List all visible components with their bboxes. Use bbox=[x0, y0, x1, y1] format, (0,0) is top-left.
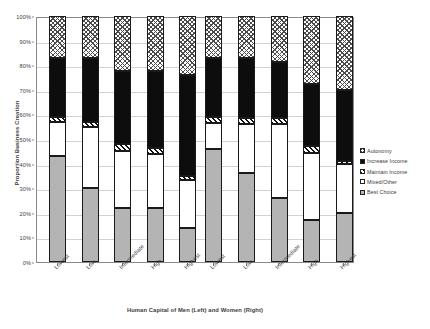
bar-segment-autonomy bbox=[179, 16, 196, 75]
bar-segment-maintain-income bbox=[49, 117, 66, 122]
bar bbox=[336, 18, 353, 262]
bar-segment-best-choice bbox=[303, 220, 320, 262]
bar-segment-autonomy bbox=[238, 16, 255, 58]
bar-segment-increase-income bbox=[179, 75, 196, 176]
bar bbox=[271, 18, 288, 262]
legend-swatch-icon bbox=[360, 190, 365, 195]
bar-segment-autonomy bbox=[336, 16, 353, 90]
bar bbox=[303, 18, 320, 262]
legend-item: Autonomy bbox=[360, 146, 428, 156]
bar-segment-increase-income bbox=[114, 71, 131, 144]
legend-item: Increase Income bbox=[360, 156, 428, 166]
y-axis-tick-label: 20% bbox=[20, 211, 32, 217]
stacked-bar-chart: Proportion Business Creation 0%10%20%30%… bbox=[0, 0, 430, 329]
legend-swatch-icon bbox=[360, 159, 365, 164]
bar-segment-mixed-other bbox=[82, 127, 99, 189]
y-axis-tick-mark bbox=[32, 213, 34, 214]
y-axis-tick-label: 10% bbox=[20, 235, 32, 241]
y-axis-tick-label: 100% bbox=[16, 14, 31, 20]
legend-label: Autonomy bbox=[367, 148, 392, 154]
y-axis-tick-mark bbox=[32, 90, 34, 91]
bar-segment-increase-income bbox=[49, 58, 66, 117]
bar-segment-maintain-income bbox=[179, 176, 196, 180]
bar-segment-autonomy bbox=[271, 16, 288, 62]
bar-segment-maintain-income bbox=[114, 144, 131, 151]
bar-segment-mixed-other bbox=[179, 180, 196, 228]
bar-segment-increase-income bbox=[303, 84, 320, 147]
y-axis-tick-label: 40% bbox=[20, 162, 32, 168]
bar-segment-mixed-other bbox=[271, 124, 288, 198]
plot-area bbox=[36, 17, 354, 263]
bar-segment-increase-income bbox=[147, 71, 164, 147]
bar bbox=[49, 18, 66, 262]
y-axis-tick-labels: 0%10%20%30%40%50%60%70%80%90%100% bbox=[0, 17, 34, 263]
bar-segment-best-choice bbox=[49, 156, 66, 262]
bar-segment-increase-income bbox=[82, 58, 99, 122]
legend-swatch-icon bbox=[360, 169, 365, 174]
bar-segment-best-choice bbox=[238, 173, 255, 262]
bar-segment-autonomy bbox=[303, 16, 320, 84]
bars-layer bbox=[37, 18, 353, 262]
legend-item: Best Choice bbox=[360, 188, 428, 198]
x-axis-title: Human Capital of Men (Left) and Women (R… bbox=[36, 307, 354, 313]
bar-segment-autonomy bbox=[205, 16, 222, 58]
y-axis-tick-label: 60% bbox=[20, 112, 32, 118]
y-axis-tick-label: 90% bbox=[20, 39, 32, 45]
bar-segment-increase-income bbox=[271, 62, 288, 119]
legend-item: Maintain Income bbox=[360, 167, 428, 177]
y-axis-tick-mark bbox=[32, 263, 34, 264]
x-axis-tick-labels: LowestLowIntermediateHighHighestLowestLo… bbox=[36, 264, 354, 306]
y-axis-tick-mark bbox=[32, 189, 34, 190]
y-axis-tick-label: 50% bbox=[20, 137, 32, 143]
y-axis-tick-label: 0% bbox=[23, 260, 31, 266]
legend-label: Mixed/Other bbox=[367, 179, 397, 185]
y-axis-tick-label: 30% bbox=[20, 186, 32, 192]
y-axis-tick-mark bbox=[32, 164, 34, 165]
bar-segment-autonomy bbox=[82, 16, 99, 58]
bar-segment-maintain-income bbox=[82, 122, 99, 127]
legend-swatch-icon bbox=[360, 179, 365, 184]
y-axis-tick-mark bbox=[32, 140, 34, 141]
y-axis-tick-mark bbox=[32, 41, 34, 42]
legend-label: Increase Income bbox=[367, 158, 408, 164]
bar-segment-mixed-other bbox=[49, 122, 66, 156]
bar-segment-best-choice bbox=[147, 208, 164, 262]
bar-segment-increase-income bbox=[205, 58, 222, 117]
bar bbox=[82, 18, 99, 262]
bar-segment-mixed-other bbox=[238, 124, 255, 173]
y-axis-tick-mark bbox=[32, 238, 34, 239]
bar-segment-mixed-other bbox=[205, 123, 222, 149]
bar bbox=[114, 18, 131, 262]
bar-segment-maintain-income bbox=[147, 148, 164, 154]
y-axis-tick-mark bbox=[32, 66, 34, 67]
bar-segment-mixed-other bbox=[303, 153, 320, 221]
legend-item: Mixed/Other bbox=[360, 177, 428, 187]
y-axis-tick-label: 70% bbox=[20, 88, 32, 94]
bar-segment-maintain-income bbox=[238, 118, 255, 124]
bar-segment-mixed-other bbox=[114, 151, 131, 208]
legend-label: Maintain Income bbox=[367, 169, 407, 175]
bar-segment-autonomy bbox=[114, 16, 131, 71]
y-axis-tick-label: 80% bbox=[20, 63, 32, 69]
bar-segment-best-choice bbox=[205, 149, 222, 262]
bar-segment-mixed-other bbox=[336, 164, 353, 213]
bar bbox=[238, 18, 255, 262]
bar-segment-maintain-income bbox=[336, 161, 353, 163]
bar-segment-autonomy bbox=[147, 16, 164, 71]
legend-swatch-icon bbox=[360, 148, 365, 153]
bar-segment-autonomy bbox=[49, 16, 66, 58]
bar-segment-increase-income bbox=[238, 58, 255, 118]
bar-segment-best-choice bbox=[271, 198, 288, 262]
y-axis-tick-mark bbox=[32, 17, 34, 18]
bar bbox=[147, 18, 164, 262]
legend-label: Best Choice bbox=[367, 189, 397, 195]
bar-segment-mixed-other bbox=[147, 154, 164, 208]
bar bbox=[179, 18, 196, 262]
bar bbox=[205, 18, 222, 262]
bar-segment-maintain-income bbox=[205, 117, 222, 123]
bar-segment-maintain-income bbox=[271, 118, 288, 124]
chart-legend: AutonomyIncrease IncomeMaintain IncomeMi… bbox=[360, 146, 428, 198]
bar-segment-maintain-income bbox=[303, 146, 320, 152]
bar-segment-increase-income bbox=[336, 90, 353, 161]
bar-segment-best-choice bbox=[82, 188, 99, 262]
